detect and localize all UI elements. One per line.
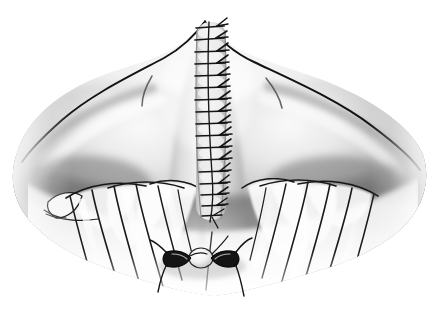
illustration-canvas <box>0 0 442 311</box>
incision-bead <box>200 171 222 183</box>
incision-bead <box>198 87 224 99</box>
medical-illustration-figure: Midline closure of posterior neck incisi… <box>0 0 442 311</box>
incision-bead <box>198 123 224 135</box>
inferior-tissue-nodule <box>189 248 213 268</box>
incision-bead <box>198 111 224 123</box>
incision-bead <box>198 99 224 111</box>
incision-bead <box>198 135 224 147</box>
